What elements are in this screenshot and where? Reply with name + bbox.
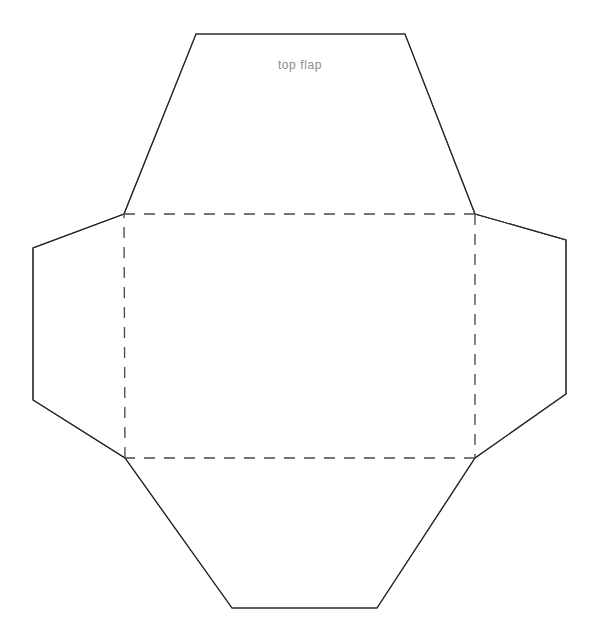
- top-flap-label: top flap: [278, 58, 322, 72]
- page-background: [0, 0, 599, 640]
- envelope-template-diagram: top flap: [0, 0, 599, 640]
